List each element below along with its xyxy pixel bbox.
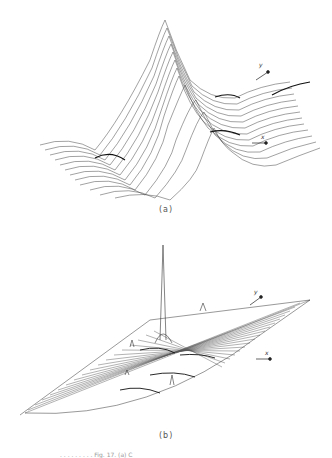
x-axis-label-a: x	[261, 133, 265, 140]
x-axis-label-b: x	[265, 349, 269, 356]
y-axis-label-b: y	[254, 288, 258, 295]
figure-panel-b: y x (b)	[0, 225, 332, 440]
panel-label-a: (a)	[159, 205, 173, 214]
figure-caption: . . . . . . . . . Fig. 17. (a) C	[60, 451, 133, 458]
panel-label-b: (b)	[159, 431, 173, 440]
surface-plot-b	[0, 225, 332, 440]
surface-plot-a	[0, 0, 332, 215]
y-axis-label-a: y	[259, 61, 263, 68]
figure-panel-a: y x (a)	[0, 0, 332, 215]
